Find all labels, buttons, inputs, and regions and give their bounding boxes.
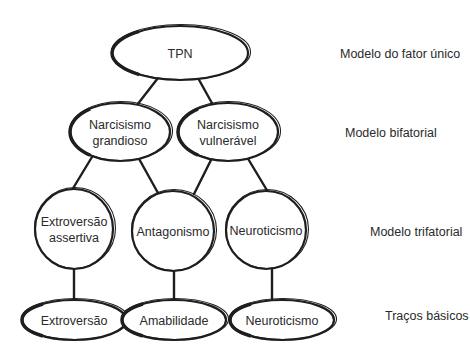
node-label-ng-line-2: grandioso: [93, 134, 148, 148]
node-label-ama: Amabilidade: [140, 314, 209, 328]
node-label-ext: Extroversão: [41, 314, 108, 328]
nodes-layer: TPNNarcisismograndiosoNarcisismovulneráv…: [22, 25, 337, 341]
node-ama: Amabilidade: [122, 299, 229, 341]
node-ea: Extroversãoassertiva: [35, 188, 116, 270]
node-label-neu2: Neuroticismo: [246, 314, 319, 328]
node-nv: Narcisismovulnerável: [178, 102, 281, 162]
edge-nv-neu: [247, 157, 268, 192]
node-label-ea-line-2: assertiva: [49, 231, 99, 245]
level-label-bifactorial: Modelo bifatorial: [345, 126, 437, 140]
level-label-basic-traits: Traços básicos: [385, 309, 469, 323]
node-tpn: TPN: [112, 25, 251, 81]
edge-tpn-nv: [198, 78, 213, 105]
node-label-ng-line-1: Narcisismo: [89, 118, 151, 132]
node-label-neu: Neuroticismo: [230, 224, 303, 238]
edge-ng-ant: [138, 157, 158, 193]
edge-ng-ea: [72, 157, 92, 190]
node-label-nv-line-1: Narcisismo: [197, 118, 259, 132]
level-label-trifactorial: Modelo trifatorial: [370, 225, 462, 239]
edge-nv-ant: [194, 158, 212, 194]
node-ant: Antagonismo: [132, 190, 217, 272]
hierarchy-diagram: TPNNarcisismograndiosoNarcisismovulneráv…: [0, 0, 470, 355]
node-ng: Narcisismograndioso: [70, 102, 173, 162]
node-neu2: Neuroticismo: [230, 299, 337, 341]
node-ext: Extroversão: [22, 299, 129, 341]
node-label-nv-line-2: vulnerável: [200, 134, 257, 148]
node-label-ea-line-1: Extroversão: [41, 215, 108, 229]
level-label-single-factor: Modelo do fator único: [340, 47, 460, 61]
level-labels: Modelo do fator único Modelo bifatorial …: [340, 47, 469, 323]
node-label-tpn: TPN: [168, 47, 193, 61]
node-neu: Neuroticismo: [226, 190, 309, 270]
node-label-ant: Antagonismo: [137, 225, 210, 239]
edge-tpn-ng: [137, 78, 158, 105]
